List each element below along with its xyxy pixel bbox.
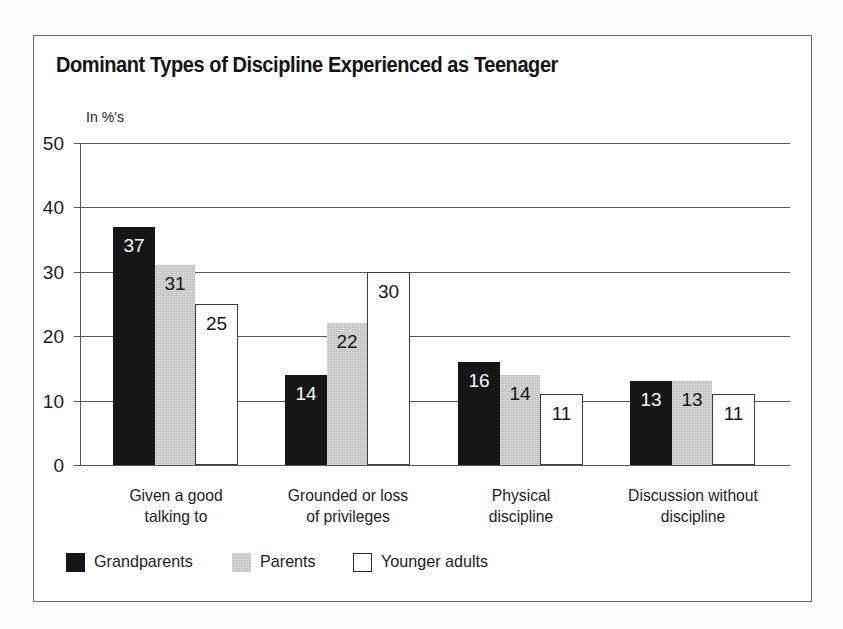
legend-item[interactable]: Grandparents bbox=[66, 552, 198, 572]
bar-parents[interactable]: 31 bbox=[155, 265, 195, 465]
chart-title: Dominant Types of Discipline Experienced… bbox=[56, 53, 558, 78]
bar-grandparents[interactable]: 14 bbox=[285, 375, 327, 465]
gridline bbox=[80, 465, 790, 466]
legend-label: Grandparents bbox=[94, 552, 193, 572]
legend-item[interactable]: Parents bbox=[232, 552, 319, 572]
bar-value-label: 14 bbox=[285, 384, 327, 403]
bar-value-label: 22 bbox=[327, 332, 367, 351]
bar-parents[interactable]: 14 bbox=[500, 375, 540, 465]
bar-grandparents[interactable]: 16 bbox=[458, 362, 500, 465]
bar-value-label: 11 bbox=[713, 404, 754, 423]
gridline bbox=[80, 207, 790, 208]
legend-label: Younger adults bbox=[381, 552, 488, 572]
bar-value-label: 14 bbox=[500, 384, 540, 403]
bar-value-label: 11 bbox=[541, 404, 582, 423]
bar-parents[interactable]: 22 bbox=[327, 323, 367, 465]
white-swatch bbox=[353, 553, 372, 572]
legend-label: Parents bbox=[260, 552, 316, 572]
bar-value-label: 25 bbox=[196, 314, 237, 333]
y-axis-tick-label: 20 bbox=[43, 327, 64, 346]
y-axis-tick-label: 50 bbox=[43, 134, 64, 153]
bar-value-label: 30 bbox=[368, 282, 409, 301]
legend-item[interactable]: Younger adults bbox=[353, 552, 494, 572]
bar-grandparents[interactable]: 37 bbox=[113, 227, 155, 465]
bar-younger[interactable]: 25 bbox=[195, 304, 238, 465]
bar-value-label: 13 bbox=[672, 390, 712, 409]
bar-younger[interactable]: 11 bbox=[712, 394, 755, 465]
y-axis-tick-label: 0 bbox=[53, 456, 64, 475]
bar-value-label: 16 bbox=[458, 371, 500, 390]
gray-swatch bbox=[232, 553, 251, 572]
y-axis-tick-label: 10 bbox=[43, 392, 64, 411]
plot-area: 373125142230161411131311 bbox=[80, 143, 790, 465]
black-swatch bbox=[66, 553, 85, 572]
category-label-line: discipline bbox=[588, 506, 797, 527]
category-label-line: Discussion without bbox=[588, 485, 797, 506]
bar-value-label: 37 bbox=[113, 236, 155, 255]
bar-value-label: 31 bbox=[155, 274, 195, 293]
y-axis-tick-label: 30 bbox=[43, 263, 64, 282]
bar-parents[interactable]: 13 bbox=[672, 381, 712, 465]
bar-grandparents[interactable]: 13 bbox=[630, 381, 672, 465]
gridline bbox=[80, 143, 790, 144]
bar-younger[interactable]: 11 bbox=[540, 394, 583, 465]
y-axis-tick-label: 40 bbox=[43, 199, 64, 218]
bar-younger[interactable]: 30 bbox=[367, 272, 410, 465]
y-axis-unit-label: In %'s bbox=[86, 108, 124, 125]
chart-page: Dominant Types of Discipline Experienced… bbox=[0, 0, 843, 629]
chart-legend: GrandparentsParentsYounger adults bbox=[66, 552, 493, 572]
bar-value-label: 13 bbox=[630, 390, 672, 409]
category-label: Discussion withoutdiscipline bbox=[588, 485, 797, 527]
